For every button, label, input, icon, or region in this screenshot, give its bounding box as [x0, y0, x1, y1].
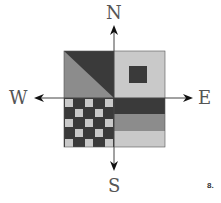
southwest-checkerboard — [64, 98, 114, 147]
figure-number: 8. — [207, 181, 214, 190]
south-label: S — [108, 177, 120, 195]
east-label: E — [198, 89, 211, 107]
southeast-quadrant — [114, 98, 165, 147]
northeast-quadrant — [114, 51, 165, 98]
north-label: N — [106, 4, 122, 22]
northwest-quadrant — [64, 51, 114, 98]
west-label: W — [9, 89, 28, 107]
compass-diagram: N S W E 8. — [0, 0, 221, 203]
small-dark-square — [129, 66, 147, 83]
quadrant-square — [0, 0, 221, 203]
